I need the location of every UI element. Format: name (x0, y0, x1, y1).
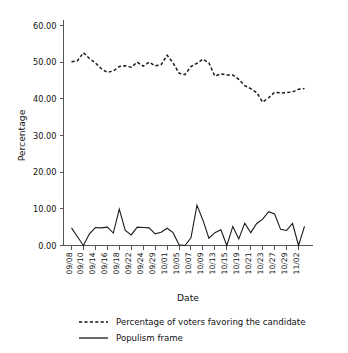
x-tick-label: 10/19 (232, 252, 241, 274)
x-tick-label: 09/10 (76, 252, 85, 274)
x-tick-label: 09/22 (124, 252, 133, 274)
x-tick-label: 10/13 (208, 252, 217, 274)
x-tick-label: 10/09 (196, 252, 205, 274)
y-tick-label: 50.00 (33, 57, 56, 67)
series-lines (72, 53, 305, 246)
x-tick-label: 09/24 (136, 252, 145, 274)
x-tick-label: 09/14 (88, 252, 97, 274)
y-tick-label: 60.00 (33, 21, 56, 31)
y-tick-label: 10.00 (33, 204, 56, 214)
x-tick-label: 11/02 (292, 252, 301, 274)
chart-legend: Percentage of voters favoring the candid… (79, 317, 306, 343)
x-tick-label: 10/01 (160, 252, 169, 274)
chart-figure: 0.0010.0020.0030.0040.0050.0060.00 09/08… (0, 0, 348, 353)
y-tick-label: 20.00 (33, 167, 56, 177)
y-tick-label: 30.00 (33, 131, 56, 141)
x-tick-label: 09/16 (100, 252, 109, 274)
x-axis-title: Date (177, 292, 199, 303)
x-tick-label: 10/07 (184, 252, 193, 274)
x-axis: 09/0809/1009/1409/1609/1809/2209/2409/29… (64, 246, 313, 275)
series-line-1 (72, 53, 305, 102)
series-line-2 (72, 205, 305, 245)
y-axis: 0.0010.0020.0030.0040.0050.0060.00 (33, 20, 63, 251)
x-tick-label: 10/05 (172, 252, 181, 274)
x-tick-label: 09/08 (65, 252, 74, 274)
x-tick-label: 10/15 (220, 252, 229, 274)
y-tick-label: 0.00 (38, 241, 56, 251)
y-tick-label: 40.00 (33, 94, 56, 104)
x-tick-label: 10/23 (256, 252, 265, 274)
legend-label-2: Populism frame (116, 333, 183, 343)
legend-label-1: Percentage of voters favoring the candid… (116, 317, 306, 327)
x-tick-label: 10/27 (268, 252, 277, 274)
line-chart-canvas: 0.0010.0020.0030.0040.0050.0060.00 09/08… (0, 0, 348, 353)
x-tick-label: 10/29 (280, 252, 289, 274)
x-tick-label: 09/18 (112, 252, 121, 274)
x-tick-label: 10/21 (244, 252, 253, 274)
x-tick-label: 09/29 (148, 252, 157, 274)
y-axis-title: Percentage (16, 109, 27, 161)
